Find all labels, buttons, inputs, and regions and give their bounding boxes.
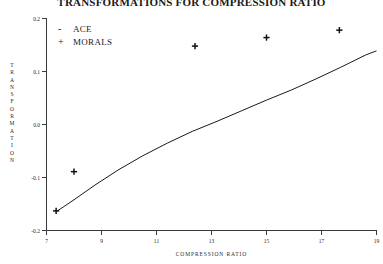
y-axis-ticks	[42, 19, 47, 231]
y-tick-label: 0.1	[33, 69, 40, 75]
morals-point-marker	[71, 169, 77, 175]
legend-label-morals: MORALS	[73, 37, 112, 47]
morals-point-marker	[263, 34, 269, 40]
y-tick-label: 0.0	[33, 122, 40, 128]
data-series-layer	[53, 27, 376, 214]
chart-legend: - ACE + MORALS	[58, 23, 112, 47]
y-tick-labels: 0.2 0.1 0.0 -0.1 -0.2	[31, 16, 40, 234]
x-tick-label: 11	[154, 238, 160, 244]
legend-label-ace: ACE	[73, 24, 92, 34]
ace-curve	[58, 51, 377, 211]
y-tick-label: -0.1	[31, 175, 40, 181]
x-tick-label: 7	[45, 238, 48, 244]
x-tick-label: 17	[319, 238, 325, 244]
x-tick-label: 15	[264, 238, 270, 244]
y-tick-label: 0.2	[33, 16, 40, 22]
x-axis-title: COMPRESSION RATIO	[176, 251, 247, 257]
morals-point-marker	[192, 43, 198, 49]
legend-symbol-morals: +	[58, 36, 64, 47]
x-tick-label: 13	[209, 238, 215, 244]
x-tick-labels: 7 9 11 13 15 17 19	[45, 238, 379, 244]
x-tick-label: 9	[100, 238, 103, 244]
x-tick-label: 19	[374, 238, 380, 244]
morals-point-marker	[336, 27, 342, 33]
chart-figure: TRANSFORMATIONS FOR COMPRESSION RATIO T …	[0, 0, 383, 264]
plot-area: 0.2 0.1 0.0 -0.1 -0.2 7 9 11 13 15 17 19…	[0, 0, 383, 264]
x-axis-ticks	[47, 231, 377, 236]
legend-symbol-ace: -	[58, 23, 61, 34]
morals-point-marker	[53, 208, 59, 214]
y-tick-label: -0.2	[31, 228, 40, 234]
